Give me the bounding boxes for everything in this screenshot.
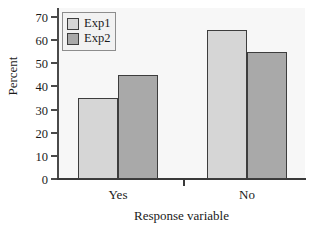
- y-axis-line: [57, 8, 59, 180]
- y-axis-tick-label: 10: [20, 151, 48, 163]
- y-axis-tick-label-text: 10: [20, 151, 48, 164]
- y-axis-tick: [51, 109, 57, 111]
- y-axis-tick-label: 30: [20, 105, 48, 117]
- y-axis-tick-label: 20: [20, 128, 48, 140]
- bar-exp1-no: [207, 30, 247, 179]
- x-axis-category-label: Yes: [78, 188, 158, 201]
- y-axis-tick-label: 50: [20, 58, 48, 70]
- bar-exp2-no: [247, 52, 287, 179]
- legend-label: Exp1: [84, 17, 110, 30]
- x-axis-category-label: No: [207, 188, 287, 201]
- chart-legend: Exp1Exp2: [62, 12, 116, 51]
- y-axis-tick: [51, 39, 57, 41]
- y-axis-tick-label: 0: [20, 174, 48, 186]
- y-axis-title: Percent: [5, 31, 21, 121]
- y-axis-tick-label-text: 30: [20, 105, 48, 118]
- y-axis-tick: [51, 85, 57, 87]
- y-axis-tick: [51, 178, 57, 180]
- y-axis-tick: [51, 132, 57, 134]
- y-axis-tick-label-text: 60: [20, 35, 48, 48]
- x-axis-tick: [183, 180, 185, 186]
- legend-swatch-exp1: [67, 18, 79, 30]
- bar-exp1-yes: [78, 98, 118, 179]
- legend-label: Exp2: [84, 32, 110, 45]
- bar-chart: 010203040506070 YesNo Percent Response v…: [0, 0, 324, 234]
- y-axis-tick-label-text: 20: [20, 128, 48, 141]
- y-axis-tick-label: 70: [20, 12, 48, 24]
- bar-exp2-yes: [118, 75, 158, 179]
- x-axis-title: Response variable: [57, 208, 306, 224]
- legend-swatch-exp2: [67, 33, 79, 45]
- legend-item: Exp1: [67, 16, 110, 31]
- y-axis-tick-label: 40: [20, 81, 48, 93]
- y-axis-tick: [51, 16, 57, 18]
- y-axis-tick-label: 60: [20, 35, 48, 47]
- y-axis-tick: [51, 155, 57, 157]
- legend-item: Exp2: [67, 31, 110, 46]
- y-axis-tick: [51, 62, 57, 64]
- y-axis-tick-label-text: 70: [20, 12, 48, 25]
- y-axis-tick-label-text: 50: [20, 58, 48, 71]
- y-axis-tick-label-text: 40: [20, 81, 48, 94]
- y-axis-tick-label-text: 0: [20, 174, 48, 187]
